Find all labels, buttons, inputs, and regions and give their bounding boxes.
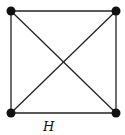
graph-h: [0, 0, 125, 135]
node-top-right: [112, 7, 121, 16]
node-top-left: [7, 7, 16, 16]
node-bottom-right: [112, 109, 121, 118]
graph-label: H: [43, 119, 54, 134]
node-bottom-left: [7, 109, 16, 118]
